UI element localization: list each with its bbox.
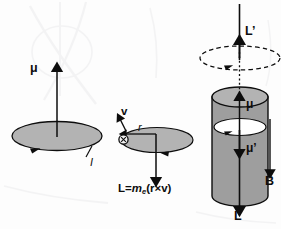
radius-label: r [138,122,142,133]
angular-momentum-formula: L=me(r×v) [118,183,171,196]
current-direction-arrowhead [30,148,41,153]
electron-orbit-disc [121,128,193,153]
formula-mass: m [132,182,142,194]
electron-particle [119,135,128,144]
velocity-label: v [121,106,127,118]
velocity-vector-arrow [121,120,127,131]
mu-prime-label: μ’ [246,142,257,154]
physics-diagram-figure: μ I v r L=me(r×v) L’ μ μ’ B L [0,0,281,229]
formula-lhs: L [118,182,125,194]
current-label: I [90,157,93,168]
magnetic-field-label: B [265,175,274,188]
orbiting-electron-group [119,120,193,178]
current-loop-group [12,71,102,157]
mu-label-left: μ [30,62,38,75]
angular-momentum-label-cylinder: L [234,210,242,223]
formula-close-paren: ) [168,182,172,194]
formula-equals: = [125,182,132,194]
mu-label-cylinder: μ [246,98,253,110]
l-prime-label: L’ [245,25,255,38]
